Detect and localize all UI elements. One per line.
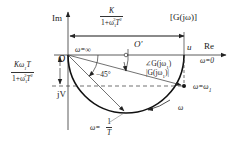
- direction-label: ω: [178, 104, 183, 112]
- omega-corner-fraction: 1 T: [106, 118, 112, 136]
- center-label: O': [134, 40, 142, 49]
- u-label: u: [187, 43, 192, 52]
- function-label: [G(jω)]: [170, 13, 197, 22]
- real-part-fraction: K 1+ω12T2: [100, 7, 123, 28]
- center-point: [124, 53, 128, 57]
- imag-part-fraction: Kω1T 1+ω12T2: [11, 61, 34, 85]
- origin-label: O: [58, 54, 65, 64]
- imag-axis-label: Im: [52, 14, 62, 23]
- omega-corner-label: ω=: [90, 124, 100, 132]
- omega-infinity-label: ω=∞: [75, 46, 91, 54]
- angle-label: −45°: [96, 71, 111, 79]
- real-axis-label: Re: [204, 42, 214, 51]
- omega-zero-label: ω=0: [200, 57, 214, 65]
- direction-arrow: [148, 100, 170, 110]
- vector-corner: [68, 55, 124, 111]
- magnitude-label: |G(jω1)|: [146, 69, 169, 79]
- angle-arc-phase: [126, 49, 128, 71]
- jv-label: jV: [57, 90, 66, 99]
- omega-one-label: ω=ω1: [193, 83, 211, 93]
